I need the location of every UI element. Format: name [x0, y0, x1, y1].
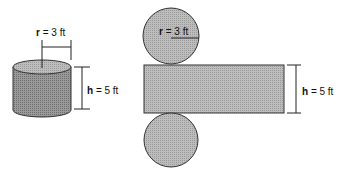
cylinder-height-label: h = 5 ft: [87, 85, 119, 96]
cylinder-3d: r = 3 ft h = 5 ft: [13, 27, 119, 117]
cylinder-radius-label: r = 3 ft: [36, 27, 65, 38]
cylinder-net: r = 3 ft h = 5 ft: [143, 8, 334, 167]
cylinder-net-diagram: r = 3 ft h = 5 ft r = 3 ft h = 5 ft: [0, 0, 350, 176]
net-radius-label: r = 3 ft: [159, 26, 188, 37]
net-bottom-circle: [144, 113, 198, 167]
net-lateral-rectangle: [144, 65, 284, 113]
net-height-label: h = 5 ft: [302, 86, 334, 97]
